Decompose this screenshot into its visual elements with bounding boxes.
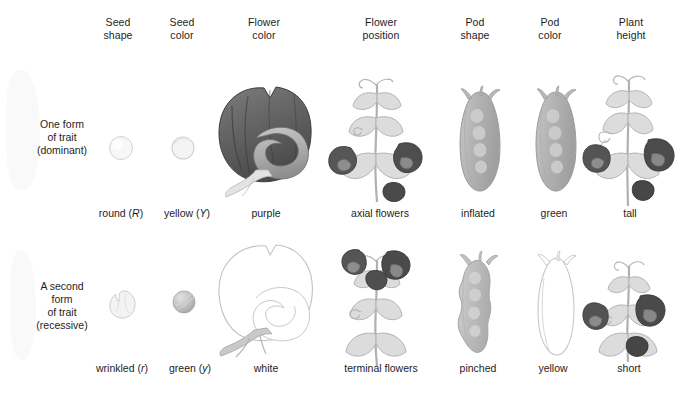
column-header-line2: color xyxy=(228,29,300,42)
caption-yellow-pod: yellow xyxy=(520,362,586,375)
caption-pinched: pinched xyxy=(444,362,512,375)
column-header-seed-shape: Seed shape xyxy=(88,16,148,42)
caption-text: green xyxy=(169,362,196,374)
short-plant-illustration xyxy=(582,252,682,362)
column-header-line2: color xyxy=(152,29,212,42)
mendel-traits-figure: Seed shape Seed color Flower color Flowe… xyxy=(0,0,683,404)
tall-plant-illustration xyxy=(582,70,682,206)
caption-axial-flowers: axial flowers xyxy=(328,207,432,220)
row-label-line: (recessive) xyxy=(14,319,110,332)
caption-inflated: inflated xyxy=(443,207,513,220)
caption-terminal-flowers: terminal flowers xyxy=(322,362,440,375)
column-header-line2: shape xyxy=(443,29,507,42)
column-header-pod-color: Pod color xyxy=(518,16,582,42)
column-header-plant-height: Plant height xyxy=(596,16,666,42)
column-header-line1: Flower xyxy=(365,16,397,28)
column-header-seed-color: Seed color xyxy=(152,16,212,42)
yellow-pod-illustration xyxy=(526,250,590,362)
caption-yellow-seed: yellow (Y) xyxy=(147,207,227,220)
column-header-flower-color: Flower color xyxy=(228,16,300,42)
pinched-pod-illustration xyxy=(448,250,512,362)
round-seed-illustration xyxy=(107,134,135,162)
column-header-line1: Seed xyxy=(106,16,131,28)
column-header-line2: shape xyxy=(88,29,148,42)
column-header-line1: Seed xyxy=(170,16,195,28)
row-label-line: of trait xyxy=(14,306,110,319)
caption-wrinkled: wrinkled (r) xyxy=(78,362,166,375)
caption-green-pod: green xyxy=(522,207,586,220)
caption-allele: r xyxy=(141,362,145,374)
column-header-line1: Flower xyxy=(248,16,280,28)
column-header-line2: height xyxy=(596,29,666,42)
row-label-line: A second xyxy=(14,280,110,293)
row-label-line: One form xyxy=(14,118,110,131)
caption-short: short xyxy=(598,362,660,375)
column-header-line2: position xyxy=(338,29,424,42)
row-label-line: of trait xyxy=(14,131,110,144)
row-label-recessive: A second form of trait (recessive) xyxy=(14,280,110,332)
caption-text: yellow xyxy=(164,207,193,219)
purple-flower-illustration xyxy=(212,82,320,200)
white-flower-illustration xyxy=(210,240,322,360)
column-header-line2: color xyxy=(518,29,582,42)
caption-allele: y xyxy=(202,362,207,374)
caption-text: wrinkled xyxy=(96,362,135,374)
caption-green-seed: green (y) xyxy=(154,362,226,375)
caption-tall: tall xyxy=(600,207,660,220)
row-label-line: form xyxy=(14,293,110,306)
row-label-line: (dominant) xyxy=(14,144,110,157)
column-header-line1: Plant xyxy=(619,16,643,28)
column-header-line1: Pod xyxy=(541,16,560,28)
green-pod-illustration xyxy=(528,86,590,198)
yellow-seed-illustration xyxy=(169,134,197,162)
terminal-flower-plant-illustration xyxy=(325,248,429,366)
axial-flower-plant-illustration xyxy=(325,72,429,204)
column-header-pod-shape: Pod shape xyxy=(443,16,507,42)
caption-white: white xyxy=(232,362,300,375)
caption-text: round xyxy=(99,207,126,219)
green-seed-illustration xyxy=(170,288,198,316)
inflated-pod-illustration xyxy=(452,86,514,198)
row-label-dominant: One form of trait (dominant) xyxy=(14,118,110,157)
wrinkled-seed-illustration xyxy=(106,288,138,320)
column-header-flower-position: Flower position xyxy=(338,16,424,42)
caption-purple: purple xyxy=(230,207,302,220)
column-header-line1: Pod xyxy=(466,16,485,28)
caption-allele: Y xyxy=(200,207,207,219)
caption-allele: R xyxy=(132,207,140,219)
